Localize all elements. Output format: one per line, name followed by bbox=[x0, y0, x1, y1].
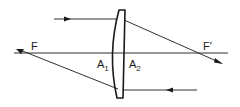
arrow-left-icon bbox=[166, 88, 173, 93]
focus-F-prime-label: F′ bbox=[203, 40, 212, 52]
vertex-A1-label: A1 bbox=[97, 58, 109, 73]
arrow-down-right-icon bbox=[214, 58, 223, 64]
vertex-A2-label: A2 bbox=[129, 58, 141, 73]
arrow-right-icon bbox=[64, 17, 71, 22]
lens-ray-diagram: F F′ A1 A2 bbox=[0, 0, 240, 107]
lens bbox=[112, 10, 125, 98]
focus-F-label: F bbox=[31, 40, 38, 52]
